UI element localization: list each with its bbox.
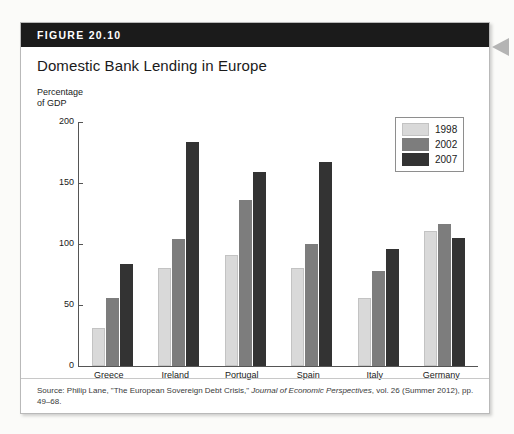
bar-group: Ireland bbox=[158, 100, 199, 366]
bar-germany-1998 bbox=[424, 231, 437, 366]
left-pointing-arrow-icon bbox=[492, 38, 509, 56]
bar-italy-2007 bbox=[386, 249, 399, 366]
y-axis-tick-label: 0 bbox=[44, 360, 74, 370]
bar-italy-1998 bbox=[358, 298, 371, 366]
legend-item-2002: 2002 bbox=[402, 138, 457, 151]
figure-card: FIGURE 20.10 Domestic Bank Lending in Eu… bbox=[20, 22, 490, 414]
figure-number-label: FIGURE 20.10 bbox=[37, 29, 121, 41]
bar-greece-2002 bbox=[106, 298, 119, 366]
y-axis-tick-label: 150 bbox=[44, 177, 74, 187]
chart-legend: 199820022007 bbox=[395, 117, 464, 172]
bar-group: Spain bbox=[291, 100, 332, 366]
bar-ireland-1998 bbox=[158, 268, 171, 366]
y-axis-tick bbox=[78, 366, 83, 367]
bar-spain-1998 bbox=[291, 268, 304, 366]
legend-item-1998: 1998 bbox=[402, 123, 457, 136]
legend-item-2007: 2007 bbox=[402, 153, 457, 166]
bar-spain-2007 bbox=[319, 162, 332, 366]
legend-swatch-2002 bbox=[402, 138, 429, 151]
y-axis-tick-label: 100 bbox=[44, 238, 74, 248]
bar-italy-2002 bbox=[372, 271, 385, 366]
bar-germany-2007 bbox=[452, 238, 465, 366]
bar-group: Italy bbox=[358, 100, 399, 366]
legend-label-1998: 1998 bbox=[435, 124, 457, 135]
bar-greece-1998 bbox=[92, 328, 105, 366]
plot-area: 050100150200 GreeceIrelandPortugalSpainI… bbox=[61, 100, 481, 366]
y-axis-tick-label: 50 bbox=[44, 299, 74, 309]
source-divider bbox=[21, 378, 489, 379]
source-lead: Source: Philip Lane, "The European Sover… bbox=[37, 386, 251, 395]
bar-spain-2002 bbox=[305, 244, 318, 366]
source-note: Source: Philip Lane, "The European Sover… bbox=[37, 385, 475, 407]
legend-swatch-2007 bbox=[402, 153, 429, 166]
bar-group: Portugal bbox=[225, 100, 266, 366]
figure-header-bar: FIGURE 20.10 bbox=[21, 23, 489, 47]
chart-title: Domestic Bank Lending in Europe bbox=[37, 57, 267, 74]
y-axis-tick-label: 200 bbox=[44, 116, 74, 126]
source-journal-title: Journal of Economic Perspectives bbox=[251, 386, 372, 395]
bar-portugal-2002 bbox=[239, 200, 252, 366]
bar-greece-2007 bbox=[120, 264, 133, 366]
bar-portugal-1998 bbox=[225, 255, 238, 366]
bar-portugal-2007 bbox=[253, 172, 266, 366]
bar-ireland-2007 bbox=[186, 142, 199, 366]
legend-label-2007: 2007 bbox=[435, 154, 457, 165]
bar-germany-2002 bbox=[438, 224, 451, 366]
x-axis-line bbox=[78, 366, 478, 367]
legend-swatch-1998 bbox=[402, 123, 429, 136]
bar-group: Greece bbox=[92, 100, 133, 366]
legend-label-2002: 2002 bbox=[435, 139, 457, 150]
bar-ireland-2002 bbox=[172, 239, 185, 366]
